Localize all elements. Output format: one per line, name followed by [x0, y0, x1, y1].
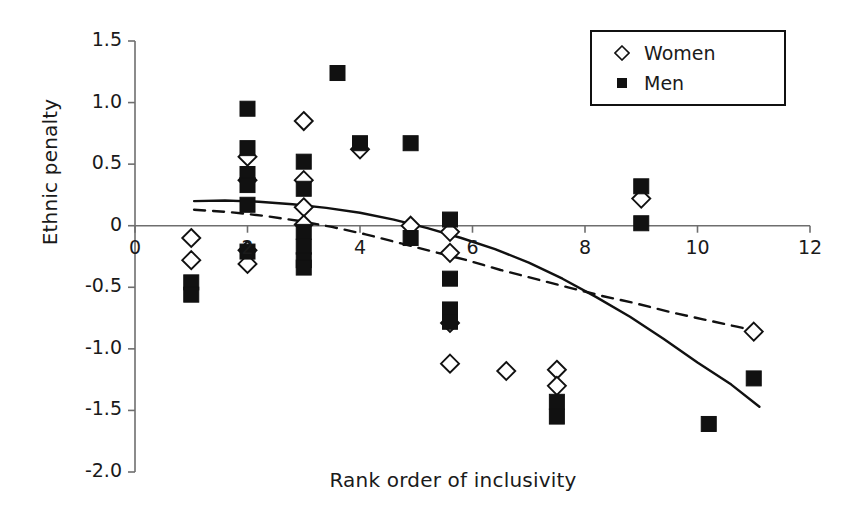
y-tick-label: -1.5	[85, 397, 122, 419]
y-tick-label: -0.5	[85, 274, 122, 296]
filled-square-icon	[614, 75, 630, 91]
y-axis-title: Ethnic penalty	[38, 42, 62, 302]
y-tick-label: 0	[110, 213, 122, 235]
legend: Women Men	[590, 30, 786, 106]
x-tick-label: 4	[330, 236, 390, 258]
y-tick-label: -2.0	[85, 459, 122, 481]
x-tick-label: 0	[105, 236, 165, 258]
x-tick-label: 8	[555, 236, 615, 258]
x-tick-label: 12	[780, 236, 840, 258]
legend-item-women: Women	[614, 40, 716, 66]
y-tick-label: 1.5	[92, 28, 122, 50]
chart-figure: 1.51.00.50-0.5-1.0-1.5-2.0024681012 Ethn…	[0, 0, 858, 522]
y-tick-label: 0.5	[92, 151, 122, 173]
legend-item-men: Men	[614, 70, 684, 96]
legend-label-men: Men	[644, 72, 684, 94]
open-diamond-icon	[614, 45, 630, 61]
trend-lines	[194, 201, 759, 407]
x-tick-label: 2	[218, 236, 278, 258]
y-tick-label: 1.0	[92, 90, 122, 112]
x-tick-label: 6	[443, 236, 503, 258]
x-axis-title: Rank order of inclusivity	[238, 468, 668, 492]
x-tick-label: 10	[668, 236, 728, 258]
legend-label-women: Women	[644, 42, 716, 64]
y-tick-label: -1.0	[85, 336, 122, 358]
